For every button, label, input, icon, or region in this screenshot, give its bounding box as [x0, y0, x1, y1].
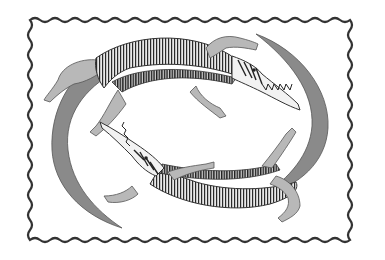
crocodile-illustration [0, 0, 385, 260]
lower-croc-eye [144, 156, 148, 160]
upper-croc-eye [252, 68, 256, 72]
